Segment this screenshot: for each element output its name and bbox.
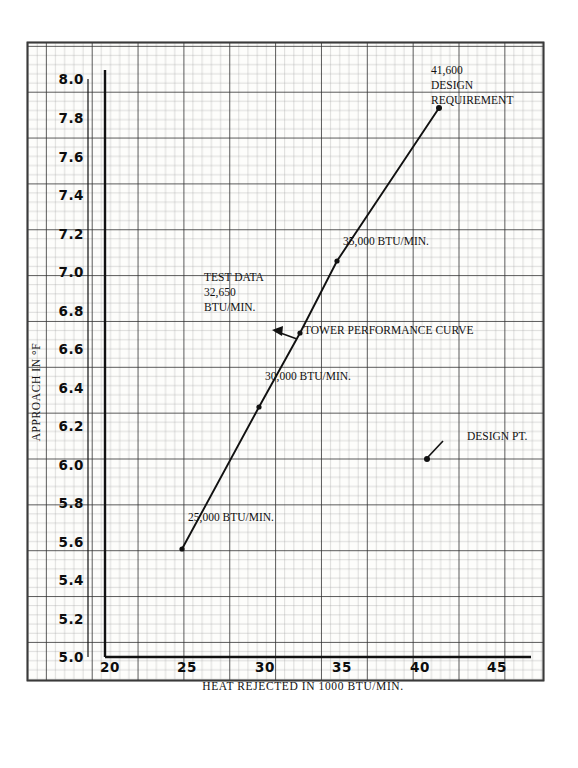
y-tick-6-2: 6.2 <box>59 418 84 434</box>
y-tick-7-8: 7.8 <box>59 110 84 126</box>
y-tick-7-0: 7.0 <box>59 264 84 280</box>
data-point-25000 <box>179 546 184 551</box>
annot-test-data-line2: 32,650 <box>204 286 236 299</box>
annot-point-35000: 35,000 BTU/MIN. <box>343 235 429 248</box>
y-tick-5-6: 5.6 <box>59 534 84 550</box>
y-tick-7-6: 7.6 <box>59 149 84 165</box>
x-tick-30: 30 <box>255 659 275 675</box>
data-point-30000 <box>256 404 261 409</box>
annot-design-requirement-value: 41,600 <box>431 64 463 77</box>
x-tick-45: 45 <box>487 659 507 675</box>
chart-figure: 8.0 7.8 7.6 7.4 7.2 7.0 6.8 6.6 6.4 6.2 … <box>0 0 578 768</box>
y-tick-8-0: 8.0 <box>59 71 84 87</box>
approach-vs-heat-rejected-chart: 8.0 7.8 7.6 7.4 7.2 7.0 6.8 6.6 6.4 6.2 … <box>0 0 578 768</box>
data-point-35000 <box>334 258 339 263</box>
y-tick-5-8: 5.8 <box>59 495 84 511</box>
y-tick-6-8: 6.8 <box>59 303 84 319</box>
y-tick-7-4: 7.4 <box>59 187 84 203</box>
annot-design-pt: DESIGN PT. <box>467 430 528 442</box>
y-tick-6-4: 6.4 <box>59 380 84 396</box>
annot-point-30000: 30,000 BTU/MIN. <box>265 370 351 383</box>
x-tick-40: 40 <box>410 659 430 675</box>
y-tick-6-0: 6.0 <box>59 457 84 473</box>
annot-tower-performance-curve: TOWER PERFORMANCE CURVE <box>304 324 473 336</box>
y-tick-5-0: 5.0 <box>59 649 84 665</box>
x-tick-20: 20 <box>100 659 120 675</box>
y-tick-7-2: 7.2 <box>59 226 84 242</box>
y-tick-5-2: 5.2 <box>59 611 84 627</box>
annot-design-requirement-line2: REQUIREMENT <box>431 94 513 106</box>
data-point-32650 <box>297 330 302 335</box>
x-tick-35: 35 <box>332 659 352 675</box>
annot-test-data-line3: BTU/MIN. <box>204 301 256 313</box>
annot-test-data-line1: TEST DATA <box>204 271 265 283</box>
annot-design-requirement-line1: DESIGN <box>431 79 474 91</box>
y-tick-6-6: 6.6 <box>59 341 84 357</box>
y-axis-title: APPROACH IN °F <box>30 343 42 442</box>
annot-point-25000: 25,000 BTU/MIN. <box>188 511 274 524</box>
x-axis-title: HEAT REJECTED IN 1000 BTU/MIN. <box>202 680 403 692</box>
y-tick-5-4: 5.4 <box>59 572 84 588</box>
x-tick-25: 25 <box>177 659 197 675</box>
